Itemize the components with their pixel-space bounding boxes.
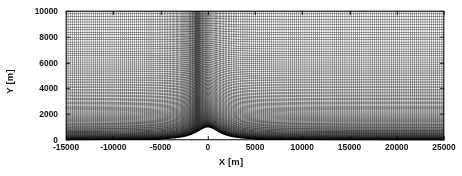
computational-mesh-plot [0, 0, 462, 176]
y-tick-label: 2000 [39, 109, 58, 119]
y-axis-tick-labels: 0200040006000800010000 [0, 0, 62, 176]
y-tick-label: 8000 [39, 32, 58, 42]
y-tick-label: 6000 [39, 58, 58, 68]
y-tick-label: 4000 [39, 83, 58, 93]
y-tick-label: 10000 [35, 6, 58, 16]
y-tick-label: 0 [53, 135, 58, 145]
mesh-figure: 0200040006000800010000 -15000-10000-5000… [0, 0, 462, 176]
